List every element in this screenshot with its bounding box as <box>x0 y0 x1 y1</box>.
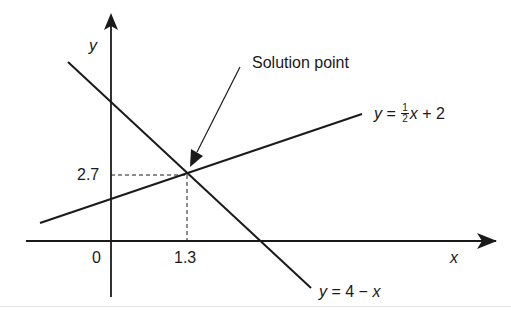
y-axis-label: y <box>89 38 97 54</box>
graph-canvas <box>0 0 511 311</box>
solution-point-label: Solution point <box>252 55 349 71</box>
eq2-fraction: 12 <box>401 103 409 124</box>
eq2-lhs: y <box>374 105 382 122</box>
eq1-var: x <box>372 283 380 300</box>
eq2-equals: = <box>382 105 400 122</box>
origin-label: 0 <box>92 250 101 266</box>
x-axis-label: x <box>450 250 458 266</box>
eq2-var: x <box>410 105 418 122</box>
bottom-border <box>0 306 511 307</box>
x-tick-label: 1.3 <box>174 250 196 266</box>
equation-line-2: y = 12x + 2 <box>374 104 445 125</box>
eq1-lhs: y <box>319 283 327 300</box>
solution-point-arrow <box>197 67 240 152</box>
eq2-denominator: 2 <box>401 114 409 124</box>
eq2-rest: + 2 <box>418 105 445 122</box>
y-tick-label: 2.7 <box>77 167 99 183</box>
equation-line-1: y = 4 − x <box>319 284 380 300</box>
eq1-equals: = 4 − <box>327 283 372 300</box>
